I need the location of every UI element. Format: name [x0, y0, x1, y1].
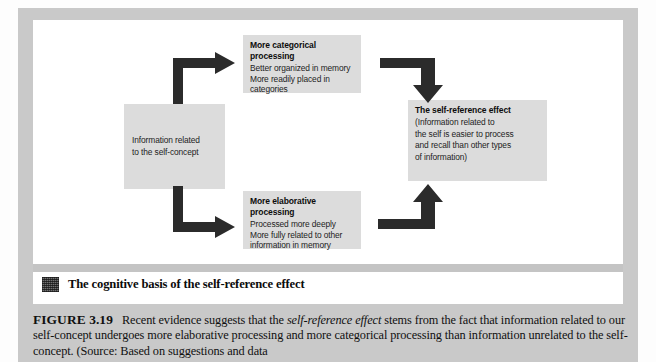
figure-caption-text: FIGURE 3.19Recent evidence suggests that… [33, 312, 629, 359]
effect-line-3: and recall than other types [415, 140, 547, 152]
categorical-line-3: categories [250, 84, 361, 95]
scanned-page: Information related to the self-concept … [0, 0, 656, 362]
concept-box-source: Information related to the self-concept [124, 104, 225, 189]
elaborative-line-2: More fully related to other [250, 230, 361, 241]
arrow-source-to-categorical-icon [167, 52, 237, 104]
concept-box-self-reference-effect: The self-reference effect (Information r… [408, 100, 547, 181]
diagram-panel: Information related to the self-concept … [33, 20, 623, 264]
arrow-source-to-elaborative-icon [167, 186, 237, 238]
source-line-2: to the self-concept [132, 147, 200, 158]
categorical-line-1: Better organized in memory [250, 63, 361, 74]
panel-divider [33, 264, 623, 272]
source-line-1: Information related [132, 135, 200, 146]
effect-header: The self-reference effect [415, 105, 547, 116]
caption-part-1: Recent evidence suggests that the [122, 313, 287, 327]
micro-title-row: The cognitive basis of the self-referenc… [42, 277, 304, 292]
figure-number-label: FIGURE 3.19 [33, 312, 113, 327]
effect-line-2: the self is easier to process [415, 129, 547, 141]
arrow-elaborative-to-effect-icon [378, 182, 450, 234]
caption-emphasis: self-reference effect [287, 313, 381, 327]
categorical-line-2: More readily placed in [250, 74, 361, 85]
categorical-header: More categorical processing [250, 40, 361, 62]
arrow-categorical-to-effect-icon [380, 53, 450, 105]
concept-box-categorical: More categorical processing Better organ… [243, 35, 361, 93]
effect-line-4: of information) [415, 152, 547, 164]
elaborative-line-1: Processed more deeply [250, 219, 361, 230]
micro-title-text: The cognitive basis of the self-referenc… [68, 277, 304, 292]
figure-caption-block: FIGURE 3.19Recent evidence suggests that… [33, 312, 633, 362]
elaborative-line-3: information in memory [250, 240, 361, 251]
effect-line-1: (Information related to [415, 117, 547, 129]
concept-box-elaborative: More elaborative processing Processed mo… [243, 191, 361, 249]
halftone-square-icon [42, 277, 59, 292]
elaborative-header: More elaborative processing [250, 196, 361, 218]
